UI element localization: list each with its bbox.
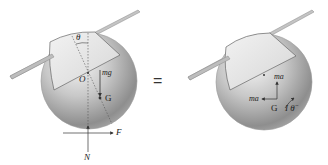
label-O: O [79,75,86,84]
point-O [87,72,89,74]
label-I-theta: I θ̈ [285,104,295,113]
label-G: G [271,104,278,113]
label-mg: mg [102,69,112,77]
equals-sign: = [153,72,162,90]
label-theta: θ [76,33,80,42]
point-O [263,74,265,76]
center-of-mass-G [99,97,102,100]
label-G: G [105,94,112,103]
diagram-canvas [0,0,328,165]
label-F: F [116,128,122,137]
label-ma-vertical: ma [274,73,284,81]
label-ma-horizontal: ma [249,95,259,103]
label-N: N [84,153,90,162]
right-kinetic-diagram [188,10,314,130]
